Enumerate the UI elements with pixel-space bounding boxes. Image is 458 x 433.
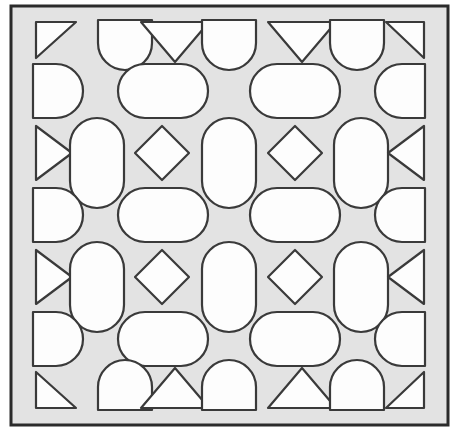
hole-capsule-h-r2-1 xyxy=(118,64,208,118)
hole-half-capsule-right-1 xyxy=(375,64,425,118)
hole-capsule-v-r5-2 xyxy=(202,242,256,332)
hole-capsule-h-r6-1 xyxy=(118,312,208,366)
hole-capsule-h-r6-2 xyxy=(250,312,340,366)
hole-half-capsule-top-2 xyxy=(202,20,256,70)
hole-half-capsule-bottom-2 xyxy=(202,360,256,410)
hole-capsule-v-r3-3 xyxy=(334,118,388,208)
hole-half-capsule-bottom-1 xyxy=(98,360,152,410)
hole-capsule-h-r4-1 xyxy=(118,188,208,242)
hole-half-capsule-right-3 xyxy=(375,312,425,366)
hole-capsule-v-r5-3 xyxy=(334,242,388,332)
figure-canvas: Perforated plate pattern Square gray pla… xyxy=(0,0,458,433)
hole-half-capsule-left-1 xyxy=(33,64,83,118)
hole-capsule-v-r3-2 xyxy=(202,118,256,208)
hole-half-capsule-bottom-3 xyxy=(330,360,384,410)
hole-capsule-h-r2-2 xyxy=(250,64,340,118)
hole-capsule-v-r5-1 xyxy=(70,242,124,332)
hole-half-capsule-left-2 xyxy=(33,188,83,242)
perforated-plate-drawing xyxy=(0,0,458,433)
hole-half-capsule-top-1 xyxy=(98,20,152,70)
hole-half-capsule-left-3 xyxy=(33,312,83,366)
hole-half-capsule-top-3 xyxy=(330,20,384,70)
hole-capsule-v-r3-1 xyxy=(70,118,124,208)
hole-capsule-h-r4-2 xyxy=(250,188,340,242)
hole-half-capsule-right-2 xyxy=(375,188,425,242)
